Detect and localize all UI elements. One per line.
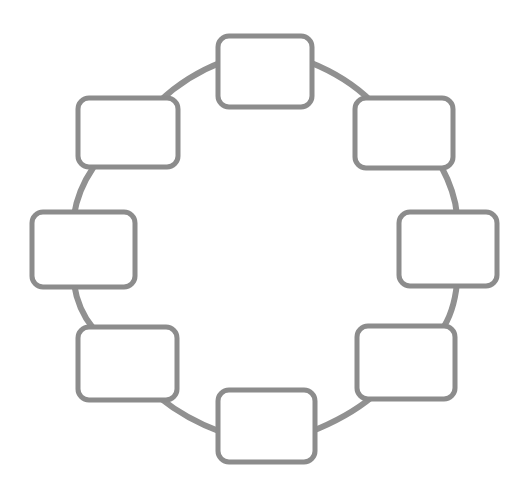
node-top[interactable] bbox=[218, 36, 312, 107]
connector-bottom-to-bottom-left[interactable] bbox=[160, 398, 221, 432]
node-bottom[interactable] bbox=[218, 390, 315, 462]
node-top-left[interactable] bbox=[78, 98, 178, 167]
connector-bottom-right-to-bottom[interactable] bbox=[310, 397, 372, 432]
node-top-right[interactable] bbox=[355, 98, 453, 168]
diagram-canvas bbox=[0, 0, 531, 489]
node-left[interactable] bbox=[32, 212, 135, 287]
cycle-diagram bbox=[0, 0, 531, 489]
node-group bbox=[32, 36, 497, 462]
connector-bottom-left-to-left[interactable] bbox=[74, 284, 93, 328]
connector-top-left-to-top[interactable] bbox=[160, 62, 222, 101]
connector-top-right-to-right[interactable] bbox=[441, 166, 457, 215]
node-bottom-right[interactable] bbox=[357, 326, 455, 399]
node-right[interactable] bbox=[399, 212, 497, 286]
node-bottom-left[interactable] bbox=[78, 327, 177, 400]
connector-left-to-top-left[interactable] bbox=[74, 168, 93, 215]
